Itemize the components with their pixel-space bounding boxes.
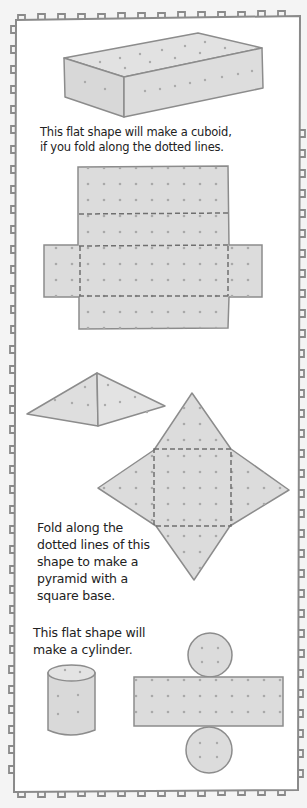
caption-line: shape to make a <box>37 553 150 570</box>
caption-line: This flat shape will <box>33 624 145 641</box>
caption-line: dotted lines of this <box>37 536 150 553</box>
caption-line: if you fold along the dotted lines. <box>40 140 232 155</box>
caption-line: pyramid with a <box>37 570 150 587</box>
caption-line: square base. <box>37 587 150 604</box>
caption-line: This flat shape will make a cuboid, <box>40 125 232 140</box>
shape-nets-page: This flat shape will make a cuboid, if y… <box>0 0 307 808</box>
cylinder-caption: This flat shape will make a cylinder. <box>33 624 145 658</box>
cylinder-3d-figure <box>48 665 95 735</box>
pyramid-caption: Fold along the dotted lines of this shap… <box>37 519 150 604</box>
cuboid-caption: This flat shape will make a cuboid, if y… <box>40 125 232 155</box>
caption-line: Fold along the <box>37 519 150 536</box>
illustration-canvas <box>0 0 307 808</box>
caption-line: make a cylinder. <box>33 641 145 658</box>
